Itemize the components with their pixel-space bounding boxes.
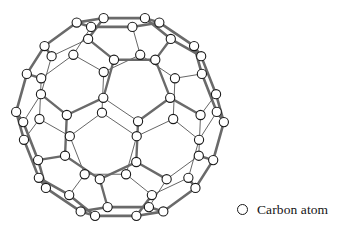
carbon-atom	[109, 55, 118, 64]
carbon-atom	[65, 132, 74, 141]
bond-bold-front	[91, 42, 110, 58]
bond-bold-front	[158, 42, 168, 56]
bond-bold-front	[140, 164, 163, 177]
carbon-atom	[76, 207, 85, 216]
carbon-atom	[19, 117, 28, 126]
bond	[129, 177, 148, 193]
carbon-atom	[36, 90, 45, 99]
carbon-atom	[12, 107, 21, 116]
bond-bold-front	[141, 100, 166, 119]
carbon-atom	[191, 183, 200, 192]
bond-bold-silhouette	[81, 19, 100, 22]
bond-bold-silhouette	[153, 208, 159, 210]
carbon-atom	[133, 117, 142, 126]
carbon-atom-icon	[237, 204, 248, 215]
bond	[73, 115, 98, 134]
carbon-atom	[69, 50, 78, 59]
carbon-atom	[19, 135, 28, 144]
carbon-atom	[155, 18, 164, 27]
bond-bold-silhouette	[141, 212, 160, 215]
carbon-atom	[197, 52, 206, 61]
carbon-atom	[62, 110, 71, 119]
carbon-atom	[170, 74, 179, 83]
bond-bold-front	[174, 100, 197, 113]
bond-bold-front	[71, 100, 100, 114]
carbon-atom	[103, 203, 112, 212]
carbon-atom	[132, 157, 141, 166]
carbon-atom	[194, 135, 203, 144]
bond	[134, 31, 140, 51]
bond-bold-silhouette	[81, 24, 87, 26]
carbon-atom	[132, 132, 141, 141]
carbon-atom	[184, 173, 193, 182]
bond	[107, 100, 135, 119]
carbon-atom	[65, 190, 74, 199]
bond-bold-silhouette	[48, 25, 73, 44]
legend: Carbon atom	[237, 203, 328, 217]
carbon-atom	[99, 67, 108, 76]
carbon-atom	[72, 18, 81, 27]
bond	[77, 57, 100, 70]
legend-label-carbon-atom: Carbon atom	[257, 203, 328, 217]
bond-bold-front	[101, 183, 107, 203]
carbon-atom	[197, 69, 206, 78]
carbon-atom	[211, 90, 220, 99]
carbon-atom	[99, 14, 108, 23]
carbon-atom	[212, 107, 221, 116]
carbon-atom	[151, 55, 160, 64]
bond-bold-front	[44, 97, 63, 113]
bond-bold-front	[136, 125, 137, 157]
carbon-atom	[40, 41, 49, 50]
bond	[102, 76, 103, 108]
bond	[176, 122, 195, 138]
bond-bold-silhouette	[29, 50, 42, 71]
carbon-atom	[121, 170, 130, 179]
carbon-atom	[90, 211, 99, 220]
bond	[179, 75, 198, 78]
bond-bold-silhouette	[31, 75, 37, 77]
carbon-atom	[37, 74, 46, 83]
carbon-atom	[209, 156, 218, 165]
bond-bold-silhouette	[167, 190, 192, 209]
carbon-atom	[132, 211, 141, 220]
carbon-atom	[34, 156, 43, 165]
carbon-atom	[60, 151, 69, 160]
carbon-atom	[22, 69, 31, 78]
bond-bold-silhouette	[198, 164, 211, 185]
bond-bold-silhouette	[214, 126, 222, 156]
bond-bold-front	[42, 156, 61, 159]
bond	[203, 98, 213, 112]
carbon-atom	[136, 50, 145, 59]
c60-molecule-diagram	[0, 0, 346, 234]
bond-bold-silhouette	[85, 213, 91, 215]
carbon-atom	[140, 14, 149, 23]
carbon-atom	[41, 183, 50, 192]
carbon-atom	[196, 110, 205, 119]
carbon-atom	[189, 41, 198, 50]
carbon-atom	[147, 190, 156, 199]
carbon-atom	[159, 207, 168, 216]
carbon-atom	[128, 22, 137, 31]
carbon-atom	[169, 114, 178, 123]
carbon-atom	[99, 93, 108, 102]
bond-bold-silhouette	[17, 78, 25, 108]
carbon-atom	[194, 151, 203, 160]
carbon-atom	[84, 34, 93, 43]
carbon-atom	[166, 93, 175, 102]
bond	[72, 178, 82, 192]
carbon-atom	[86, 22, 95, 31]
carbon-atom	[97, 108, 106, 117]
carbon-atom	[166, 34, 175, 43]
carbon-atom	[144, 203, 153, 212]
bond-bold-silhouette	[203, 157, 209, 159]
carbon-atom	[162, 175, 171, 184]
carbon-atom	[80, 170, 89, 179]
carbon-atom	[34, 173, 43, 182]
carbon-atom	[95, 175, 104, 184]
carbon-atom	[35, 114, 44, 123]
fullerene-figure: Carbon atom	[0, 0, 346, 234]
bond	[105, 115, 133, 134]
atom-layer	[12, 14, 229, 221]
bond	[43, 121, 66, 134]
bond-bold-front	[157, 64, 169, 94]
